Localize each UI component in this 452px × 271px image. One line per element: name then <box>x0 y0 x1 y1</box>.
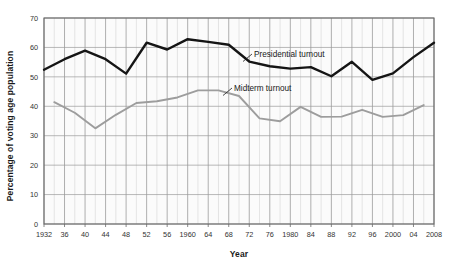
chart-container: 010203040506070 193236404448525619606468… <box>0 0 452 271</box>
x-tick-label: 84 <box>307 230 315 239</box>
x-tick-label: 1932 <box>36 230 52 239</box>
y-tick-label: 40 <box>30 102 38 111</box>
x-tick-label: 1980 <box>282 230 298 239</box>
x-tick-label: 68 <box>225 230 233 239</box>
x-tick-label: 40 <box>81 230 89 239</box>
x-axis-ticks: 1932364044485256196064687276198084889296… <box>36 224 442 239</box>
annotation-midterm-turnout: Midterm turnout <box>234 84 292 93</box>
x-tick-label: 48 <box>122 230 130 239</box>
x-tick-label: 2008 <box>426 230 442 239</box>
x-tick-label: 64 <box>204 230 212 239</box>
y-tick-label: 60 <box>30 43 38 52</box>
y-tick-label: 0 <box>34 220 38 229</box>
annotation-presidential-turnout: Presidential turnout <box>254 50 325 59</box>
y-tick-label: 20 <box>30 161 38 170</box>
x-axis-title: Year <box>230 249 249 259</box>
x-tick-label: 88 <box>327 230 335 239</box>
y-axis-ticks: 010203040506070 <box>30 14 38 229</box>
x-tick-label: 44 <box>102 230 110 239</box>
turnout-line-chart: 010203040506070 193236404448525619606468… <box>0 0 452 271</box>
y-tick-label: 10 <box>30 190 38 199</box>
y-tick-label: 70 <box>30 14 38 23</box>
x-tick-label: 56 <box>163 230 171 239</box>
x-tick-label: 2000 <box>385 230 401 239</box>
x-tick-label: 1960 <box>180 230 196 239</box>
x-tick-label: 92 <box>348 230 356 239</box>
x-tick-label: 52 <box>143 230 151 239</box>
y-tick-label: 30 <box>30 131 38 140</box>
y-tick-label: 50 <box>30 73 38 82</box>
x-tick-label: 04 <box>409 230 417 239</box>
x-tick-label: 76 <box>266 230 274 239</box>
y-axis-title: Percentage of voting age population <box>5 51 15 201</box>
x-tick-label: 96 <box>368 230 376 239</box>
x-tick-label: 36 <box>60 230 68 239</box>
x-tick-label: 72 <box>245 230 253 239</box>
